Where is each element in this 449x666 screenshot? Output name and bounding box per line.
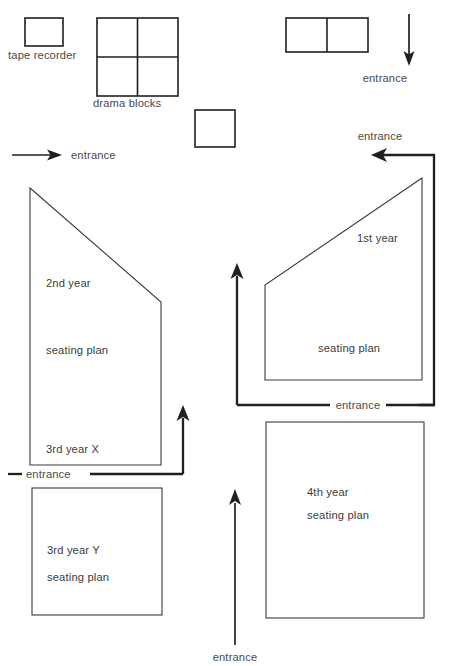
zone-fourth-year-label: 4th year	[307, 486, 349, 498]
plan-canvas: tape recorder drama blocks entrance entr…	[0, 0, 449, 666]
entrance-label-bottom: entrance	[213, 651, 258, 663]
zone-third-x-label: 3rd year X	[46, 443, 99, 455]
tape-recorder-box	[25, 18, 63, 46]
entrance-arrow-top-right-down	[404, 14, 415, 66]
zone-first-year-label: 1st year	[357, 232, 398, 244]
zone-third-y-label: 3rd year Y	[47, 544, 100, 556]
entrance-flow-right-loop	[371, 148, 434, 405]
zone-fourth-year-seating-label: seating plan	[307, 509, 369, 521]
entrance-label-left-lower: entrance	[26, 468, 71, 480]
entrance-arrow-bottom-up	[229, 489, 241, 645]
zone-third-y-seating-label: seating plan	[47, 571, 109, 583]
double-block-box	[286, 18, 368, 52]
seating-plan-diagram: tape recorder drama blocks entrance entr…	[0, 0, 449, 666]
entrance-arrow-left-upper-right	[12, 150, 62, 161]
single-block-box	[195, 110, 235, 147]
tape-recorder-label: tape recorder	[8, 49, 77, 61]
entrance-label-center-right: entrance	[336, 399, 381, 411]
entrance-arrow-left-lower-up	[177, 405, 190, 474]
drama-blocks-group	[97, 18, 178, 96]
entrance-label-top-right: entrance	[363, 72, 408, 84]
zone-second-year-label: 2nd year	[46, 277, 91, 289]
entrance-label-left-upper: entrance	[71, 149, 116, 161]
entrance-label-right-upper: entrance	[358, 130, 403, 142]
zone-second-third-x-outline	[30, 188, 161, 465]
entrance-arrow-center-up	[231, 263, 244, 405]
drama-blocks-label: drama blocks	[93, 97, 162, 109]
zone-second-year-seating-label: seating plan	[46, 344, 108, 356]
zone-first-year-seating-label: seating plan	[318, 342, 380, 354]
